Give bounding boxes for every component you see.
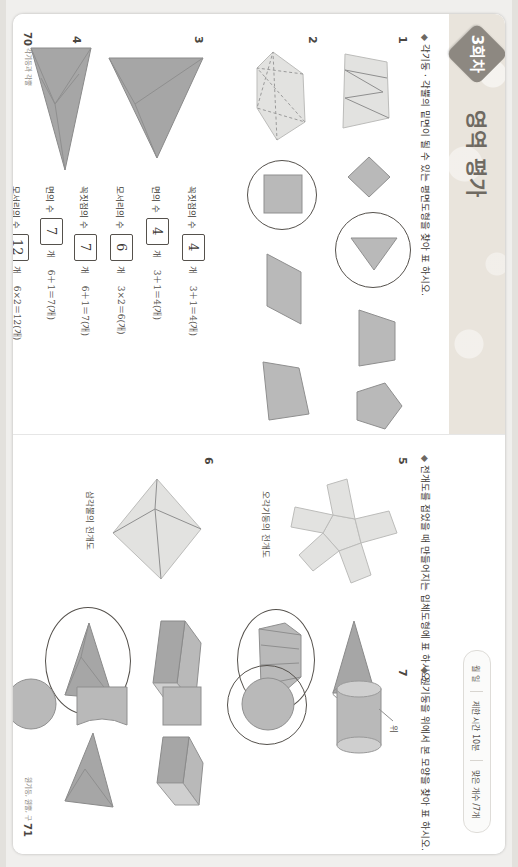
bullet-diamond-icon-3: ◆ (420, 667, 430, 674)
q3-unit-edges: 개 (116, 265, 127, 272)
header-time: 제한 시간 10분 (472, 700, 483, 750)
answer-circle-q7[interactable] (227, 665, 307, 745)
q6-caption: 삼각뿔의 전개도 (85, 491, 97, 550)
shape-pyramid-option-q6 (59, 729, 119, 813)
page-edge-left (0, 0, 6, 867)
shape-triangular-pyramid-net-q6 (109, 475, 205, 585)
q4-unit-vertices: 개 (80, 265, 91, 272)
q3-answer-faces[interactable]: 4 (146, 217, 169, 244)
right-instruction-2: ◆원기둥을 위에서 본 모양을 찾아 표 하시오. (419, 667, 433, 851)
rotated-page-spread: 3회차 영역 평가 ◆각기둥ㆍ각뿔의 밑면이 될 수 있는 평면도형을 찾아 표… (13, 14, 505, 854)
question-number-6: 6 (202, 457, 215, 465)
round-badge-label: 3회차 (455, 32, 499, 76)
right-instruction-1-text: 전개도를 접었을 때 만들어지는 입체도형에 표 하시오. (420, 464, 431, 683)
q4-unit-faces: 개 (46, 249, 57, 256)
q3-unit-vertices: 개 (188, 265, 199, 272)
right-page: 월 일 제한 시간 10분 맞은 개수 /7개 ◆전개도를 접었을 때 만들어지… (13, 434, 505, 854)
q3-equation-faces: 3＋1＝4(개) (151, 269, 164, 319)
question-number-4: 4 (70, 36, 83, 44)
shape-option-curved-q7 (69, 673, 135, 739)
question-number-7: 7 (396, 669, 409, 677)
header-score[interactable]: 맞은 개수 /7개 (472, 770, 483, 818)
right-instruction-1: ◆전개도를 접었을 때 만들어지는 입체도형에 표 하시오. (419, 455, 433, 684)
shape-parallelogram-q2 (261, 252, 307, 328)
q4-label-edges: 모서리의 수 (13, 186, 24, 229)
shape-trapezoid-q1 (353, 306, 399, 368)
shape-triangular-pyramid-q3 (101, 48, 209, 168)
score-header: 월 일 제한 시간 10분 맞은 개수 /7개 (463, 650, 491, 833)
shape-pentagonal-prism-net-q5 (281, 471, 401, 591)
q3-row-edges: 모서리의 수 6 개 3×2＝6(개) (110, 186, 133, 334)
left-page-number: 70 (22, 32, 33, 46)
shape-option-ellipse-q7 (13, 673, 59, 735)
header-divider-2 (471, 760, 484, 761)
q4-equation-vertices: 6＋1＝7(개) (79, 285, 92, 335)
shape-quadrilateral-q2 (257, 358, 313, 424)
question-number-2: 2 (306, 36, 319, 44)
right-page-caption: 원기둥, 원뿔, 구 (24, 776, 34, 820)
left-instruction: ◆각기둥ㆍ각뿔의 밑면이 될 수 있는 평면도형을 찾아 표 하시오. (419, 34, 433, 296)
q4-row-vertices: 꼭짓점의 수 7 개 6＋1＝7(개) (74, 186, 97, 336)
q4-unit-edges: 개 (13, 265, 23, 272)
round-badge: 3회차 (446, 22, 505, 84)
q3-unit-faces: 개 (152, 249, 163, 256)
screenshot-canvas: 3회차 영역 평가 ◆각기둥ㆍ각뿔의 밑면이 될 수 있는 평면도형을 찾아 표… (0, 0, 518, 867)
right-instruction-2-text: 원기둥을 위에서 본 모양을 찾아 표 하시오. (420, 676, 431, 850)
shape-prism-net-q1 (335, 48, 401, 134)
q4-equation-faces: 6＋1＝7(개) (45, 269, 58, 319)
q3-answer-vertices[interactable]: 4 (182, 233, 205, 260)
q3-answer-edges[interactable]: 6 (110, 233, 133, 260)
right-page-number: 71 (22, 823, 33, 837)
q3-label-edges: 모서리의 수 (116, 186, 128, 229)
shape-pyramid-net-q2 (251, 48, 313, 144)
section-title: 영역 평가 (463, 110, 493, 198)
q3-label-vertices: 꼭짓점의 수 (188, 186, 200, 229)
q5-caption: 오각기둥의 전개도 (261, 491, 273, 558)
q3-row-faces: 면의 수 4 개 3＋1＝4(개) (146, 186, 169, 320)
question-number-1: 1 (396, 36, 409, 44)
q4-answer-faces[interactable]: 7 (40, 217, 63, 244)
question-number-5: 5 (396, 457, 409, 465)
left-page-caption: 각기둥과 각뿔 (24, 48, 34, 86)
q3-equation-edges: 3×2＝6(개) (115, 285, 128, 334)
q4-equation-edges: 6×2＝12(개) (13, 285, 24, 339)
shape-rhombus-q1 (345, 154, 393, 200)
shape-hexagonal-pyramid-q4 (23, 44, 101, 176)
bullet-diamond-icon: ◆ (420, 34, 430, 41)
workbook-spread: 3회차 영역 평가 ◆각기둥ㆍ각뿔의 밑면이 될 수 있는 평면도형을 찾아 표… (13, 14, 505, 854)
q4-label-vertices: 꼭짓점의 수 (80, 186, 92, 229)
q7-view-label: 위 (389, 725, 401, 733)
shape-cylinder-q7 (323, 679, 395, 759)
header-date[interactable]: 월 일 (472, 665, 483, 682)
q4-row-faces: 면의 수 7 개 6＋1＝7(개) (40, 186, 63, 320)
question-number-3: 3 (192, 36, 205, 44)
answer-circle-q2[interactable] (247, 160, 317, 230)
left-page: 3회차 영역 평가 ◆각기둥ㆍ각뿔의 밑면이 될 수 있는 평면도형을 찾아 표… (13, 14, 505, 434)
q3-equation-vertices: 3＋1＝4(개) (187, 285, 200, 335)
q3-label-faces: 면의 수 (152, 186, 164, 213)
q4-row-edges: 모서리의 수 12 개 6×2＝12(개) (13, 186, 29, 340)
answer-circle-q1[interactable] (335, 212, 411, 288)
left-instruction-text: 각기둥ㆍ각뿔의 밑면이 될 수 있는 평면도형을 찾아 표 하시오. (420, 43, 431, 295)
shape-prism-option-q6 (149, 729, 209, 813)
shape-pentagon-q1 (351, 380, 405, 432)
page-edge-right (512, 0, 518, 867)
bullet-diamond-icon-2: ◆ (420, 455, 430, 462)
header-divider-1 (471, 690, 484, 691)
q3-row-vertices: 꼭짓점의 수 4 개 3＋1＝4(개) (182, 186, 205, 336)
shape-option-square-q7 (155, 679, 209, 733)
q4-label-faces: 면의 수 (46, 186, 58, 213)
q4-answer-edges[interactable]: 12 (13, 233, 29, 260)
q4-answer-vertices[interactable]: 7 (74, 233, 97, 260)
